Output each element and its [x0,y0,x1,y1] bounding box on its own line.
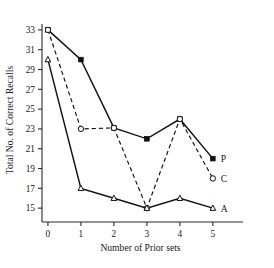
x-tick-label: 1 [79,229,84,239]
y-tick-label: 23 [26,124,36,134]
y-tick-label: 33 [26,25,36,35]
data-point-P [145,137,150,142]
data-point-C [111,125,116,130]
x-tick-label: 2 [112,229,117,239]
y-tick-label: 27 [26,85,36,95]
series-line-P [48,30,213,159]
x-tick-label: 3 [145,229,150,239]
data-point-C [177,116,182,121]
data-point-A [177,195,183,200]
y-tick-label: 15 [26,203,36,213]
x-tick-label: 4 [178,229,183,239]
data-point-A [45,56,51,61]
series-label-P: P [221,153,226,164]
y-tick-label: 19 [26,164,36,174]
y-tick-label: 17 [26,184,36,194]
series-line-C [48,30,213,208]
x-tick-label: 5 [211,229,216,239]
line-chart: 15171921232527293133012345Number of Prio… [0,0,274,268]
y-tick-label: 29 [26,65,36,75]
x-tick-label: 0 [46,229,51,239]
x-axis-title: Number of Prior sets [100,242,180,253]
y-tick-label: 25 [26,104,36,114]
series-label-C: C [221,173,227,184]
series-label-A: A [221,203,228,214]
y-tick-label: 21 [26,144,36,154]
data-point-A [78,185,84,190]
y-tick-label: 31 [26,45,36,55]
y-axis-title: Total No. of Correct Recalls [4,66,15,175]
data-point-C [210,176,215,181]
data-point-P [79,57,84,62]
data-point-C [78,126,83,131]
data-point-C [45,27,50,32]
chart-container: 15171921232527293133012345Number of Prio… [0,0,274,268]
data-point-P [211,156,216,161]
